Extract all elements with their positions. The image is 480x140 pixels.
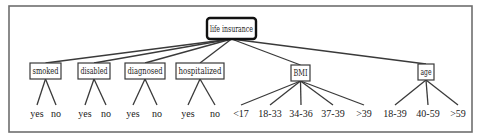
leaf-disabled-yes: yes	[78, 108, 91, 119]
node-bmi-label: BMI	[294, 68, 308, 78]
leaf-disabled-no: no	[101, 108, 111, 119]
node-hospitalized: hospitalized	[176, 63, 224, 79]
leaf-bmi-37-39: 37-39	[321, 108, 344, 119]
leaf-hospitalized-yes: yes	[181, 108, 194, 119]
leaf-age-18-39: 18-39	[383, 108, 406, 119]
leaf-bmi-gt-39: >39	[356, 108, 372, 119]
node-disabled: disabled	[78, 63, 110, 79]
root-node-label: life insurance	[210, 24, 253, 34]
leaf-smoked-no: no	[51, 108, 61, 119]
edge-bmi-to-34-36	[301, 81, 302, 105]
node-age: age	[418, 64, 434, 80]
leaf-bmi-34-36: 34-36	[289, 108, 312, 119]
leaf-age-40-59: 40-59	[416, 108, 439, 119]
leaf-smoked-yes: yes	[30, 108, 43, 119]
node-diagnosed: diagnosed	[125, 63, 165, 79]
node-smoked: smoked	[30, 63, 61, 79]
life-insurance-tree-diagram: life insurancesmokeddisableddiagnosedhos…	[0, 0, 480, 140]
leaf-hospitalized-no: no	[210, 108, 220, 119]
leaf-bmi-lt-17: <17	[233, 108, 249, 119]
node-hospitalized-label: hospitalized	[179, 66, 222, 76]
leaf-age-gt-59: >59	[450, 108, 466, 119]
node-disabled-label: disabled	[81, 66, 108, 76]
root-node: life insurance	[207, 18, 256, 39]
node-bmi: BMI	[291, 65, 310, 81]
leaf-diagnosed-no: no	[152, 108, 162, 119]
node-diagnosed-label: diagnosed	[128, 66, 163, 76]
leaf-diagnosed-yes: yes	[126, 108, 139, 119]
node-age-label: age	[421, 67, 432, 77]
leaf-bmi-18-33: 18-33	[258, 108, 281, 119]
node-smoked-label: smoked	[33, 66, 59, 76]
